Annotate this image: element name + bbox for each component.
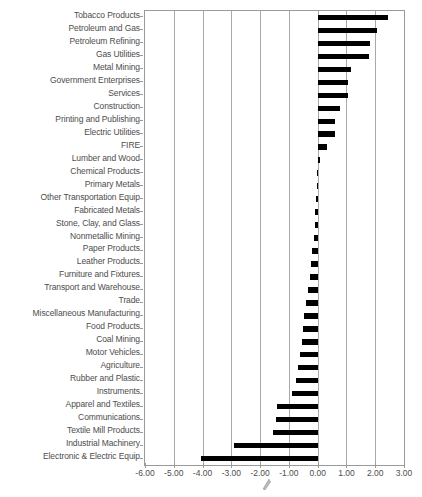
y-axis-label: Government Enterprises	[0, 76, 140, 85]
y-axis-tick	[140, 341, 143, 342]
x-axis-tick	[231, 463, 232, 468]
y-axis-label: Motor Vehicles	[0, 348, 140, 357]
bar	[318, 80, 349, 86]
y-axis-label: FIRE	[0, 141, 140, 150]
bar	[318, 28, 378, 34]
x-axis-tick	[318, 463, 319, 468]
y-axis-tick	[140, 276, 143, 277]
bar	[315, 222, 318, 228]
y-axis-label: Instruments	[0, 387, 140, 396]
x-axis-label: 3.00	[384, 468, 422, 479]
bar	[318, 157, 320, 163]
bar	[310, 274, 318, 280]
y-axis-label: Other Transportation Equip	[0, 193, 140, 202]
y-axis-label: Construction	[0, 102, 140, 111]
y-axis-label: Textile Mill Products	[0, 426, 140, 435]
bar	[302, 339, 318, 345]
y-axis-label: Printing and Publishing	[0, 115, 140, 124]
bar	[316, 196, 318, 202]
y-axis-tick	[140, 29, 143, 30]
y-axis-tick	[140, 263, 143, 264]
plot-area	[144, 10, 405, 466]
y-axis-label: Electric Utilities	[0, 128, 140, 137]
bar	[276, 417, 318, 423]
bar	[312, 248, 318, 254]
bar	[306, 300, 318, 306]
x-axis-tick	[145, 463, 146, 468]
y-axis-label: Coal Mining	[0, 335, 140, 344]
x-axis-tick	[346, 463, 347, 468]
bar	[300, 352, 318, 358]
y-axis-label: Fabricated Metals	[0, 206, 140, 215]
y-axis-tick	[140, 367, 143, 368]
x-axis-tick	[289, 463, 290, 468]
y-axis-tick	[140, 250, 143, 251]
bar	[303, 326, 318, 332]
y-axis-tick	[140, 133, 143, 134]
mouse-pointer-icon	[262, 474, 271, 490]
bar	[318, 67, 352, 73]
bar	[318, 106, 341, 112]
y-axis-tick	[140, 315, 143, 316]
y-axis-label: Gas Utilities	[0, 50, 140, 59]
y-axis-tick	[140, 406, 143, 407]
y-axis-label: Lumber and Wood	[0, 154, 140, 163]
y-axis-label: Miscellaneous Manufacturing	[0, 309, 140, 318]
bar	[318, 144, 327, 150]
y-axis-tick	[140, 68, 143, 69]
bar	[318, 41, 371, 47]
bar	[317, 183, 318, 189]
y-axis-tick	[140, 380, 143, 381]
y-axis-label: Metal Mining	[0, 63, 140, 72]
bar	[201, 456, 318, 462]
y-axis-tick	[140, 55, 143, 56]
y-axis-label: Paper Products	[0, 244, 140, 253]
bar	[298, 365, 318, 371]
y-axis-label: Leather Products	[0, 257, 140, 266]
y-axis-label: Primary Metals	[0, 180, 140, 189]
bar	[318, 15, 389, 21]
y-axis-label: Transport and Warehouse	[0, 283, 140, 292]
y-axis-tick	[140, 393, 143, 394]
y-axis-tick	[140, 172, 143, 173]
y-axis-tick	[140, 432, 143, 433]
x-axis-tick-labels: -6.00-5.00-4.00-3.00-2.00-1.000.001.002.…	[0, 468, 422, 482]
bar	[304, 313, 318, 319]
bar	[318, 119, 335, 125]
bar	[234, 443, 317, 449]
y-axis-tick	[140, 146, 143, 147]
y-axis-label: Chemical Products	[0, 167, 140, 176]
x-axis-tick	[375, 463, 376, 468]
bar	[318, 93, 348, 99]
y-axis-label: Petroleum and Gas	[0, 24, 140, 33]
y-axis-tick	[140, 120, 143, 121]
y-axis-tick	[140, 354, 143, 355]
y-axis-tick	[140, 458, 143, 459]
y-axis-tick	[140, 81, 143, 82]
bar	[308, 287, 318, 293]
y-axis-tick	[140, 94, 143, 95]
bar	[296, 378, 318, 384]
x-axis-tick	[404, 463, 405, 468]
bar	[273, 430, 318, 436]
y-axis-tick	[140, 328, 143, 329]
y-axis-label: Food Products	[0, 322, 140, 331]
y-axis-tick	[140, 107, 143, 108]
horizontal-bar-chart: Tobacco ProductsPetroleum and GasPetrole…	[0, 0, 422, 497]
y-axis-tick	[140, 419, 143, 420]
y-axis-tick	[140, 185, 143, 186]
y-axis-tick	[140, 302, 143, 303]
y-axis-label: Petroleum Refining	[0, 37, 140, 46]
bars-container	[145, 11, 404, 465]
y-axis-tick	[140, 42, 143, 43]
y-axis-tick	[140, 237, 143, 238]
bar	[292, 391, 318, 397]
x-axis-tick	[203, 463, 204, 468]
y-axis-category-labels: Tobacco ProductsPetroleum and GasPetrole…	[0, 10, 140, 466]
y-axis-tick	[140, 289, 143, 290]
y-axis-tick	[140, 211, 143, 212]
y-axis-tick	[140, 159, 143, 160]
y-axis-label: Electronic & Electric Equip	[0, 452, 140, 461]
bar	[318, 54, 370, 60]
bar	[311, 261, 318, 267]
